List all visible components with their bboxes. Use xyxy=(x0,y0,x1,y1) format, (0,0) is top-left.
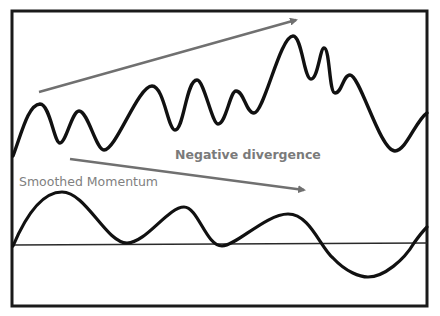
divergence-label: Negative divergence xyxy=(175,147,321,162)
divergence-chart: Negative divergence Smoothed Momentum xyxy=(0,0,440,316)
price-line xyxy=(13,36,427,156)
momentum-line xyxy=(13,192,427,277)
momentum-label: Smoothed Momentum xyxy=(19,174,158,189)
price-trend-arrow xyxy=(39,20,296,92)
